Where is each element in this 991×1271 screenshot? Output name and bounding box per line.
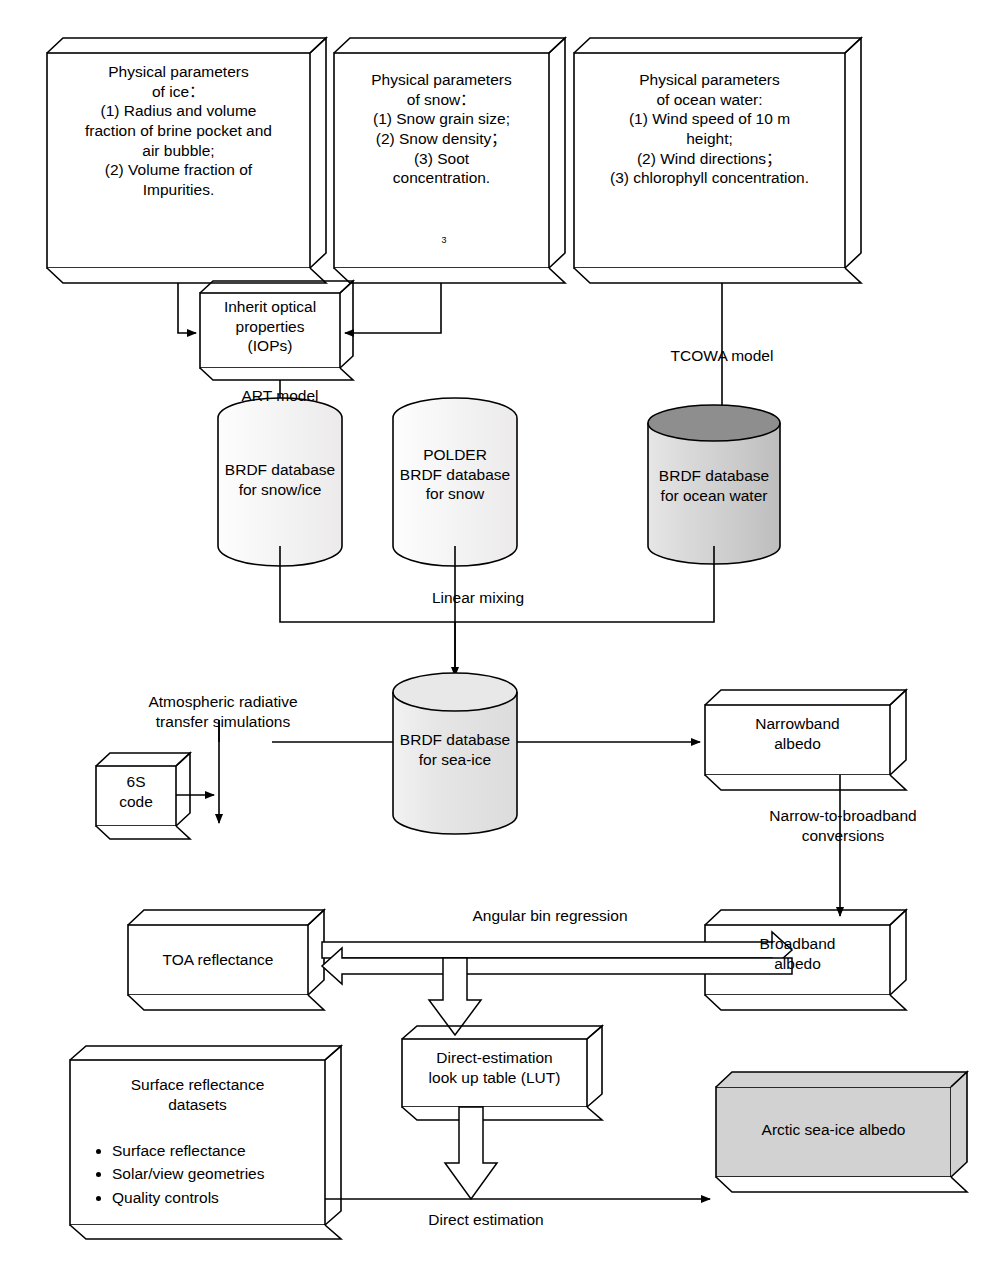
node-toa-label: TOA reflectance bbox=[128, 950, 308, 970]
node-snow-params-label: Physical parameters of snow： (1) Snow gr… bbox=[334, 70, 549, 188]
edge-label-linear-mixing: Linear mixing bbox=[378, 588, 578, 608]
node-iops-label: Inherit optical properties (IOPs) bbox=[200, 297, 340, 356]
edge-label-art: ART model bbox=[180, 386, 380, 406]
node-broadband-label: Broadband albedo bbox=[705, 934, 890, 973]
edge-label-tcowa: TCOWA model bbox=[612, 346, 832, 366]
node-ocean-params-label: Physical parameters of ocean water: (1) … bbox=[568, 70, 851, 188]
node-ice-params-label: Physical parameters of ice： (1) Radius a… bbox=[47, 62, 310, 200]
node-surface-datasets-list: Surface reflectance Solar/view geometrie… bbox=[92, 1140, 327, 1210]
node-snow-params-footnote: 3 bbox=[429, 235, 459, 245]
node-6s-code-label: 6S code bbox=[96, 772, 176, 811]
edge-snow-to-iops bbox=[345, 283, 441, 333]
node-surface-datasets-title: Surface reflectance datasets bbox=[70, 1075, 325, 1114]
list-item: Surface reflectance bbox=[112, 1140, 327, 1162]
node-db-ocean-label: BRDF database for ocean water bbox=[632, 466, 796, 505]
node-narrowband-label: Narrowband albedo bbox=[705, 714, 890, 753]
node-lut-label: Direct-estimation look up table (LUT) bbox=[402, 1048, 587, 1087]
node-db-snow-ice-label: BRDF database for snow/ice bbox=[208, 460, 352, 499]
edge-label-atmospheric: Atmospheric radiative transfer simulatio… bbox=[98, 692, 348, 731]
node-result-label: Arctic sea-ice albedo bbox=[716, 1120, 951, 1140]
list-item: Quality controls bbox=[112, 1187, 327, 1209]
edge-label-narrow-to-broad: Narrow-to-broadband conversions bbox=[723, 806, 963, 845]
edge-label-direct-estimation: Direct estimation bbox=[371, 1210, 601, 1230]
flowchart-canvas: Physical parameters of ice： (1) Radius a… bbox=[0, 0, 991, 1271]
node-db-sea-ice-label: BRDF database for sea-ice bbox=[383, 730, 527, 769]
edge-ice-to-iops bbox=[178, 283, 196, 333]
list-item: Solar/view geometries bbox=[112, 1163, 327, 1185]
node-db-polder-label: POLDER BRDF database for snow bbox=[381, 445, 529, 504]
edge-label-angular-bin: Angular bin regression bbox=[400, 906, 700, 926]
